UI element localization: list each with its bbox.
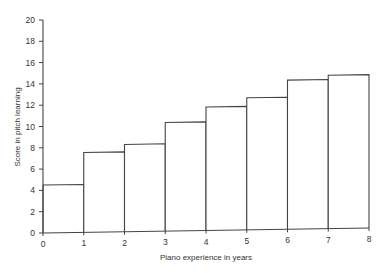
y-tick-label: 10: [26, 122, 36, 132]
x-tick-label: 7: [326, 235, 331, 245]
histogram-chart: 02468101214161820 012345678 Piano experi…: [0, 0, 386, 273]
histogram-bar: [43, 184, 84, 233]
y-axis: 02468101214161820: [26, 15, 43, 238]
x-tick-label: 4: [204, 237, 209, 247]
y-tick-label: 12: [26, 100, 36, 110]
y-tick-label: 14: [26, 79, 36, 89]
histogram-bars: [43, 75, 369, 233]
histogram-bar: [84, 152, 125, 233]
x-tick-label: 1: [81, 238, 86, 248]
x-tick-label: 8: [367, 234, 372, 244]
y-tick-label: 8: [30, 143, 35, 153]
x-tick-label: 5: [244, 236, 249, 246]
x-tick-label: 2: [122, 238, 127, 248]
histogram-bar: [125, 144, 166, 232]
x-tick-label: 3: [163, 237, 168, 247]
y-tick-label: 0: [30, 228, 35, 238]
histogram-bar: [206, 106, 247, 230]
y-tick-label: 4: [30, 185, 35, 195]
y-tick-label: 20: [26, 15, 36, 25]
y-tick-label: 2: [30, 207, 35, 217]
y-tick-label: 16: [26, 58, 36, 68]
x-axis-title: Piano experience in years: [160, 253, 252, 262]
y-axis-title: Score in pitch learning: [13, 87, 22, 166]
x-tick-label: 6: [285, 235, 290, 245]
y-tick-label: 6: [30, 164, 35, 174]
histogram-bar: [328, 75, 369, 229]
x-tick-label: 0: [41, 239, 46, 249]
histogram-bar: [288, 80, 329, 230]
y-tick-label: 18: [26, 36, 36, 46]
histogram-bar: [247, 97, 288, 230]
histogram-bar: [165, 122, 206, 231]
